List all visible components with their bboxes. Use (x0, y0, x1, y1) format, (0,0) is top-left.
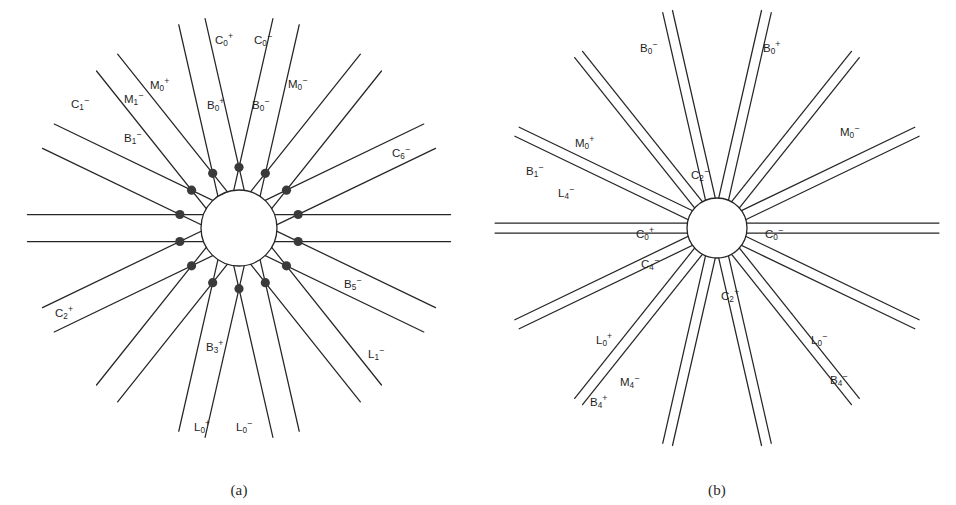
vertex-label: C0+ (215, 32, 233, 49)
panel-b-caption: (b) (478, 482, 956, 499)
vertex-label: B4+ (590, 394, 607, 411)
central-circle (201, 190, 277, 266)
vertex-label: B1− (526, 163, 543, 180)
vertex-node (282, 261, 291, 270)
vertex-label: M1− (124, 91, 143, 108)
panel-a-caption: (a) (0, 482, 478, 499)
vertex-label: M4− (620, 374, 639, 391)
vertex-label: B0+ (207, 97, 224, 114)
vertex-label: C2+ (55, 305, 73, 322)
vertex-label: C0− (254, 32, 272, 49)
vertex-label: B0− (252, 97, 269, 114)
vertex-label: M0− (840, 124, 859, 141)
vertex-label: L0− (236, 419, 252, 436)
vertex-label: C0− (765, 226, 783, 243)
vertex-label: L0+ (596, 332, 612, 349)
vertex-label: C4− (641, 256, 659, 273)
vertex-label: C1− (71, 96, 89, 113)
vertex-node (187, 261, 196, 270)
vertex-node (234, 163, 243, 172)
vertex-label: B0+ (763, 40, 780, 57)
vertex-label: C2− (691, 167, 709, 184)
vertex-node (294, 210, 303, 219)
vertex-node (187, 186, 196, 195)
vertex-label: B0− (640, 40, 657, 57)
vertex-label: L1− (368, 346, 384, 363)
figure-two-panel-line-arrangement: C0+C0−M0+M1−M0−C1−B0+B0−B1−C6−B5−C2+B3+L… (0, 0, 956, 505)
vertex-label: L0+ (194, 419, 210, 436)
vertex-node (208, 278, 217, 287)
vertex-node (234, 284, 243, 293)
vertex-label: C2+ (721, 288, 739, 305)
vertex-label: C0+ (636, 226, 654, 243)
vertex-node (294, 237, 303, 246)
panel-a-diagram: C0+C0−M0+M1−M0−C1−B0+B0−B1−C6−B5−C2+B3+L… (0, 0, 478, 465)
vertex-label: M0+ (575, 135, 594, 152)
vertex-label: M0− (288, 76, 307, 93)
vertex-node (175, 210, 184, 219)
vertex-label: B3+ (206, 339, 223, 356)
vertex-label: B1− (124, 130, 141, 147)
panel-a: C0+C0−M0+M1−M0−C1−B0+B0−B1−C6−B5−C2+B3+L… (0, 0, 478, 505)
vertex-node (208, 169, 217, 178)
vertex-label: L0− (811, 332, 827, 349)
vertex-label: M0+ (150, 77, 169, 94)
central-circle (687, 198, 747, 258)
vertex-label: L4− (558, 185, 574, 202)
vertex-node (261, 169, 270, 178)
panel-b: B0−B0+M0−M0+B1−C2−L4−C0+C0−C4−C2+L0+L0−M… (478, 0, 956, 505)
vertex-node (261, 278, 270, 287)
vertex-node (282, 186, 291, 195)
vertex-node (175, 237, 184, 246)
vertex-label: B4− (830, 372, 847, 389)
vertex-label: B5− (344, 276, 361, 293)
vertex-label: C6− (392, 145, 410, 162)
panel-b-diagram: B0−B0+M0−M0+B1−C2−L4−C0+C0−C4−C2+L0+L0−M… (478, 0, 956, 465)
